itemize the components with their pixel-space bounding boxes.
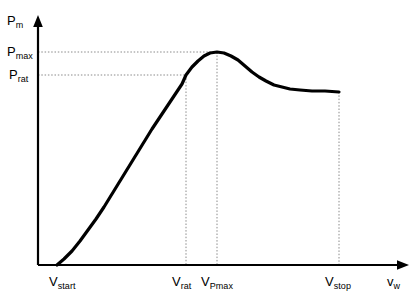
y-tick-pmax-main: P (7, 44, 16, 59)
x-axis-title-sub: w (394, 281, 401, 291)
y-tick-prat-sub: rat (18, 74, 29, 84)
x-tick-label-vstop: Vstop (325, 275, 351, 288)
y-tick-label-prat: Prat (9, 68, 28, 81)
x-tick-label-vrat: Vrat (172, 275, 191, 288)
y-axis-title: Pm (7, 14, 23, 27)
x-tick-vstart-main: V (49, 274, 58, 289)
x-axis-arrow-icon (397, 260, 409, 270)
x-tick-vpmax-main: V (201, 274, 210, 289)
power-curve-figure: Pm vw Pmax Prat Vstart Vrat VPmax Vstop (0, 0, 416, 300)
x-tick-label-vstart: Vstart (49, 275, 76, 288)
x-tick-vstart-sub: start (58, 281, 76, 291)
chart-canvas (0, 0, 416, 300)
guide-lines (38, 52, 339, 265)
x-tick-label-vpmax: VPmax (201, 275, 233, 288)
x-tick-vpmax-sub: Pmax (210, 281, 233, 291)
y-tick-label-pmax: Pmax (7, 45, 33, 58)
y-axis-title-main: P (7, 13, 16, 28)
x-tick-vrat-sub: rat (181, 281, 192, 291)
y-tick-prat-main: P (9, 67, 18, 82)
y-axis-title-sub: m (16, 20, 24, 30)
x-axis-title-main: v (387, 274, 394, 289)
y-tick-pmax-sub: max (16, 51, 33, 61)
x-axis-title: vw (387, 275, 400, 288)
x-tick-vstop-main: V (325, 274, 334, 289)
y-axis-arrow-icon (33, 15, 43, 27)
x-tick-vstop-sub: stop (334, 281, 351, 291)
x-tick-vrat-main: V (172, 274, 181, 289)
power-curve (57, 52, 339, 265)
